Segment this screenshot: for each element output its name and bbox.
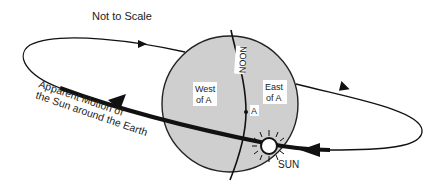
- orbit-arrow-front-right-icon: [300, 143, 320, 157]
- orbit-arrow-right-icon: [339, 81, 351, 93]
- diagram-canvas: Not to Scale NOON West of A East of A A: [0, 0, 446, 191]
- east-label-line2: of A: [266, 93, 282, 103]
- west-label-line2: of A: [196, 95, 212, 105]
- point-a-label: A: [251, 106, 257, 116]
- point-a-marker: [244, 110, 248, 114]
- sun-label: SUN: [278, 159, 299, 170]
- east-label-line1: East: [265, 82, 284, 92]
- orbit-right-path: [296, 84, 422, 150]
- west-label-line1: West: [195, 84, 216, 94]
- noon-label: NOON: [237, 46, 248, 73]
- not-to-scale-label: Not to Scale: [92, 10, 152, 22]
- orbit-arrow-top-icon: [138, 40, 147, 48]
